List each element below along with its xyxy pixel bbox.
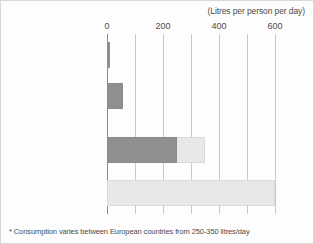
- footnote: * Consumption varies between European co…: [9, 227, 250, 236]
- bar-segment-dark: [107, 137, 177, 163]
- x-tick-label-0: 0: [104, 21, 109, 31]
- x-tick-label-600: 600: [267, 21, 282, 31]
- bar-segment-dark: [107, 83, 123, 109]
- gridline-600: [275, 34, 276, 214]
- x-tick-label-400: 400: [211, 21, 226, 31]
- axis-unit-caption: (Litres per person per day): [208, 6, 305, 16]
- bar-segment-light: [107, 180, 275, 206]
- bar-segment-dark: [107, 42, 110, 68]
- chart-figure: (Litres per person per day) * Consumptio…: [0, 0, 314, 244]
- x-tick-label-200: 200: [155, 21, 170, 31]
